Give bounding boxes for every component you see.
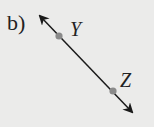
diagram-canvas: b) Y Z xyxy=(0,0,154,127)
point-y xyxy=(55,32,62,39)
point-label-y: Y xyxy=(70,19,81,39)
line-yz xyxy=(40,16,132,112)
point-label-z: Z xyxy=(120,70,131,90)
point-z xyxy=(109,87,116,94)
